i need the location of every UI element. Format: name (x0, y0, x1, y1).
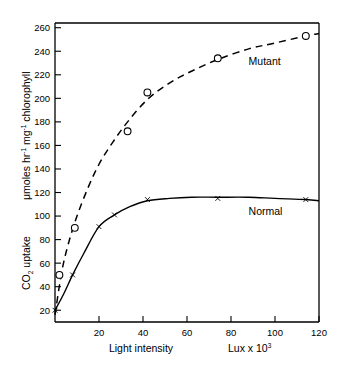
series-annotations: MutantNormal (249, 55, 283, 217)
x-axis-title-units: Lux x 10 (228, 342, 268, 354)
x-axis-ticks (99, 316, 319, 322)
y-tick-label: 200 (34, 93, 50, 104)
y-axis-ticks (55, 28, 61, 311)
data-point-normal (97, 224, 102, 229)
y-tick-label: 160 (34, 140, 50, 151)
y-tick-label: 40 (39, 281, 50, 292)
y-axis-tick-labels: 20406080100120140160180200220240260 (34, 22, 50, 316)
y-tick-label: 140 (34, 163, 50, 174)
x-axis-title-units-exp: 3 (268, 342, 272, 349)
y-tick-label: 240 (34, 46, 50, 57)
series-label-normal: Normal (249, 205, 283, 217)
y-tick-label: 220 (34, 69, 50, 80)
y-tick-label: 120 (34, 187, 50, 198)
x-tick-label: 60 (182, 327, 193, 338)
data-point-mutant (56, 272, 63, 279)
x-tick-label: 40 (138, 327, 149, 338)
x-axis-title: Light intensity Lux x 103 (109, 342, 272, 354)
y-axis-title: μmoles hr-1 mg-1 chlorophyll CO2 uptake (20, 71, 34, 290)
x-tick-label: 120 (311, 327, 327, 338)
y-tick-label: 260 (34, 22, 50, 33)
data-point-mutant (71, 224, 78, 231)
y-axis-title-tail: chlorophyll (20, 71, 32, 124)
series-curves (55, 34, 319, 315)
x-tick-label: 20 (94, 327, 105, 338)
y-tick-label: 100 (34, 210, 50, 221)
y-tick-label: 60 (39, 258, 50, 269)
x-tick-label: 100 (267, 327, 283, 338)
y-tick-label: 80 (39, 234, 50, 245)
series-curve-mutant (55, 34, 319, 315)
x-axis-tick-labels: 20406080100120 (94, 327, 327, 338)
x-tick-label: 80 (226, 327, 237, 338)
y-tick-label: 20 (39, 305, 50, 316)
x-axis-title-main: Light intensity (109, 342, 174, 354)
data-point-mutant (302, 33, 309, 40)
svg-text:μmoles hr-1 mg-1 chlorophyll: μmoles hr-1 mg-1 chlorophyll (20, 71, 32, 200)
svg-text:Lux x 103: Lux x 103 (228, 342, 272, 354)
series-label-mutant: Mutant (249, 55, 281, 67)
data-point-mutant (214, 55, 221, 62)
data-point-normal (70, 273, 75, 278)
y-axis-title-units: μmoles hr (20, 153, 32, 200)
svg-text:CO2 uptake: CO2 uptake (20, 236, 34, 290)
series-markers (53, 33, 310, 313)
data-point-normal (112, 212, 117, 217)
y-tick-label: 180 (34, 116, 50, 127)
y-axis-title-mid: mg (20, 130, 32, 148)
data-point-mutant (144, 89, 151, 96)
chart-figure: 20406080100120140160180200220240260 2040… (0, 0, 341, 371)
y-axis-title-uptake: uptake (20, 236, 32, 271)
data-point-mutant (124, 128, 131, 135)
y-axis-title-co2: CO (20, 274, 32, 290)
co2-uptake-light-response-chart: 20406080100120140160180200220240260 2040… (0, 0, 341, 371)
